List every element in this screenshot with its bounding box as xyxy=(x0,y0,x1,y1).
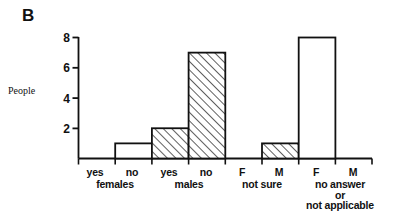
x-category-label-m-no-answer: M xyxy=(334,166,372,178)
x-group-label-females: females xyxy=(78,179,152,190)
x-category-label-no-females: no xyxy=(113,166,151,178)
y-tick-label-4: 4 xyxy=(52,92,70,106)
bar-no-3 xyxy=(189,53,226,159)
x-group-label-not-sure: not sure xyxy=(225,179,299,190)
y-tick-label-2: 2 xyxy=(52,122,70,136)
x-category-label-f-not-sure: F xyxy=(223,166,261,178)
bar-M-5 xyxy=(262,143,299,158)
chart-container: B People xyxy=(0,0,400,221)
x-category-label-m-not-sure: M xyxy=(260,166,298,178)
x-category-label-yes-males: yes xyxy=(150,166,188,178)
bar-yes-2 xyxy=(152,128,189,158)
bar-no-1 xyxy=(115,143,152,158)
x-category-label-f-no-answer: F xyxy=(297,166,335,178)
x-group-label-males: males xyxy=(152,179,226,190)
x-group-label-no-answer: no answer or not applicable xyxy=(297,179,383,211)
y-tick-label-8: 8 xyxy=(52,31,70,45)
y-tick-label-6: 6 xyxy=(52,61,70,75)
bars-group xyxy=(115,38,335,159)
bar-F-6 xyxy=(299,38,336,159)
x-category-label-no-males: no xyxy=(187,166,225,178)
x-category-label-yes-females: yes xyxy=(76,166,114,178)
